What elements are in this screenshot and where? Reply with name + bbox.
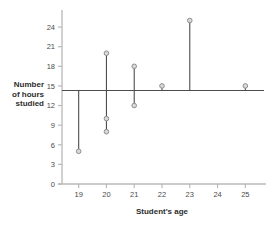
y-tick-label-6: 6: [51, 141, 55, 150]
data-point: [104, 116, 109, 121]
y-tick-label-24: 24: [47, 23, 55, 32]
data-point: [132, 103, 137, 108]
x-tick-label-21: 21: [130, 190, 138, 199]
data-point: [104, 129, 109, 134]
y-tick-label-18: 18: [47, 62, 55, 71]
data-point: [76, 149, 81, 154]
data-point: [132, 64, 137, 69]
data-point: [187, 18, 192, 23]
data-point: [243, 84, 248, 89]
chart-figure: 0369121518212419202122232425Student's ag…: [0, 0, 268, 225]
x-tick-label-24: 24: [213, 190, 221, 199]
y-axis-title-line-3: studied: [16, 99, 45, 108]
x-tick-label-22: 22: [158, 190, 166, 199]
y-tick-label-15: 15: [47, 82, 55, 91]
x-tick-label-25: 25: [241, 190, 249, 199]
scatter-plot-canvas: 0369121518212419202122232425Student's ag…: [0, 0, 268, 225]
x-tick-label-19: 19: [74, 190, 82, 199]
y-axis-title-line-2: of hours: [12, 90, 45, 99]
data-point: [104, 51, 109, 56]
y-tick-label-3: 3: [51, 160, 55, 169]
y-tick-label-9: 9: [51, 121, 55, 130]
x-axis-title: Student's age: [136, 207, 189, 216]
x-tick-label-20: 20: [102, 190, 110, 199]
y-axis-title-line-1: Number: [14, 80, 44, 89]
y-tick-label-21: 21: [47, 42, 55, 51]
x-tick-label-23: 23: [186, 190, 194, 199]
y-tick-label-12: 12: [47, 101, 55, 110]
y-tick-label-0: 0: [51, 180, 55, 189]
data-point: [160, 84, 165, 89]
